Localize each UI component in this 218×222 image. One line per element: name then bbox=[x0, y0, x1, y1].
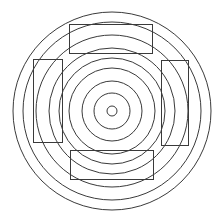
circle-ring-9 bbox=[13, 12, 211, 210]
circle-ring-6 bbox=[49, 48, 175, 174]
circle-ring-3 bbox=[82, 81, 142, 141]
concentric-circles-diagram bbox=[0, 0, 218, 222]
concentric-circles bbox=[13, 12, 211, 210]
circle-ring-5 bbox=[59, 58, 165, 164]
top-rectangle bbox=[70, 25, 153, 54]
circle-ring-1 bbox=[107, 106, 117, 116]
left-rectangle bbox=[34, 60, 63, 143]
circle-ring-8 bbox=[23, 22, 201, 200]
circle-ring-2 bbox=[94, 93, 130, 129]
